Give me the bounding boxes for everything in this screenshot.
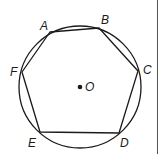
vertex-label-d: D — [120, 136, 129, 150]
vertex-label-e: E — [28, 136, 37, 150]
vertex-label-b: B — [101, 13, 109, 27]
vertex-label-f: F — [10, 65, 18, 79]
vertex-label-c: C — [143, 63, 152, 77]
vertex-label-a: A — [39, 19, 48, 33]
hexagon-abcdef — [22, 28, 138, 133]
diagram-canvas: O ABCDEF — [0, 0, 160, 154]
center-point-o — [78, 85, 83, 90]
geometry-figure: O ABCDEF — [0, 0, 160, 154]
label-o: O — [85, 80, 94, 94]
